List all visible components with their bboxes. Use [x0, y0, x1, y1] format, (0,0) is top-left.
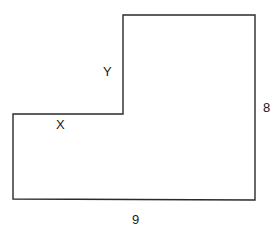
l-shape-outline [13, 15, 255, 200]
label-step-vertical: Y [103, 64, 112, 79]
label-step-horizontal: X [56, 117, 65, 132]
label-right-side: 8 [263, 100, 270, 115]
label-bottom-side: 9 [132, 212, 139, 227]
l-shape-diagram: 8 9 X Y [0, 0, 279, 238]
